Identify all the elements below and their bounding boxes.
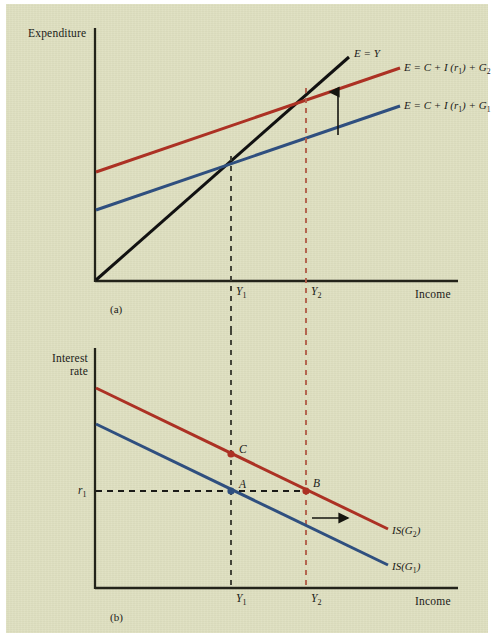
panel-b-xtick-y2: Y2 (311, 592, 321, 608)
label-is-curve-g1: IS(G1) (392, 560, 420, 576)
point-marker-a (227, 487, 234, 494)
label-expenditure-line-g1: E = C + I (r1) + G1 (404, 99, 490, 115)
label-is-g2-pre: IS(G (392, 524, 413, 536)
label-is-g1-pre: IS(G (392, 560, 413, 572)
point-marker-c (227, 450, 234, 457)
panel-b-y-axis-label-line1: Interest (52, 352, 88, 364)
forty-five-degree-line (96, 57, 349, 280)
label-e-g2-pre: E = C + I (r (404, 61, 458, 73)
panel-b-ytick-r1-sub: 1 (82, 490, 86, 499)
label-is-curve-g2: IS(G2) (392, 524, 420, 540)
panel-b-axes (95, 348, 458, 589)
figure-vector-layer (0, 0, 494, 644)
panel-b-xtick-y1: Y1 (236, 592, 246, 608)
panel-a-x-axis-label: Income (415, 288, 451, 301)
expenditure-line-g2 (96, 68, 400, 172)
panel-b-x-axis-label: Income (415, 595, 451, 608)
label-is-g2-post: ) (417, 524, 421, 536)
panel-a-xtick-y1: Y1 (236, 285, 246, 301)
label-is-g1-post: ) (417, 560, 421, 572)
label-e-g1-mid: ) + G (462, 99, 487, 111)
panel-b-y-axis-label: Interestrate (38, 352, 88, 377)
panel-b-tag: (b) (110, 611, 123, 623)
label-e-g2-mid: ) + G (462, 61, 487, 73)
panel-a-xtick-y2-sub: 2 (317, 291, 321, 300)
panel-a-xtick-y1-sub: 1 (242, 291, 246, 300)
panel-b-y-axis-label-line2: rate (70, 365, 88, 377)
expenditure-line-g1 (96, 106, 400, 210)
point-label-c: C (239, 443, 247, 456)
panel-b-ytick-r1: r1 (78, 484, 87, 500)
point-label-b: B (313, 477, 320, 490)
panel-a-y-axis-label: Expenditure (28, 27, 86, 40)
is-curve-g2 (96, 388, 388, 529)
panel-a-tag: (a) (110, 303, 122, 315)
label-expenditure-line-g2: E = C + I (r1) + G2 (404, 61, 490, 77)
label-e-g1-pre: E = C + I (r (404, 99, 458, 111)
point-label-a: A (239, 478, 246, 491)
panel-b-xtick-y2-sub: 2 (317, 598, 321, 607)
point-marker-b (302, 487, 309, 494)
panel-a-xtick-y2: Y2 (311, 285, 321, 301)
label-e-g1-sub2: 1 (487, 105, 491, 114)
economics-figure-is-curve-shift: Expenditure Income E = Y E = C + I (r1) … (0, 0, 494, 644)
label-e-g2-sub2: 2 (487, 67, 491, 76)
panel-b-xtick-y1-sub: 1 (242, 598, 246, 607)
label-forty-five-degree-line: E = Y (354, 47, 380, 59)
